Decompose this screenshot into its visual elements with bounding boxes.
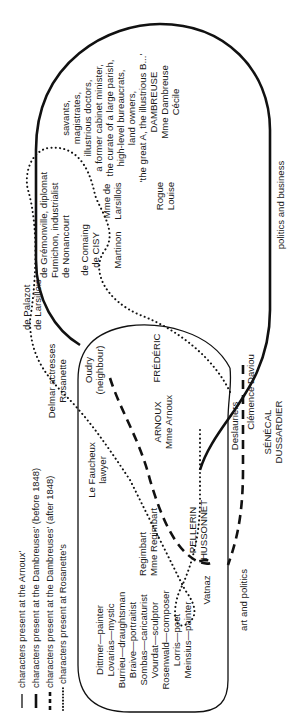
label: a former cabinet minister, [93, 64, 104, 172]
label: savants, [60, 100, 71, 136]
label-deslauriers: Deslauriers [229, 402, 240, 451]
legend-label: characters present at the Arnoux' [16, 551, 27, 688]
label: Delmar actresses [46, 343, 57, 418]
label: Rosanette [57, 359, 68, 403]
label: the curate of a large parish, [104, 60, 115, 177]
larsillois-group: Mme de Larsillois [101, 182, 123, 220]
legend-label: characters present at the Dambreuses' (a… [44, 476, 55, 688]
label: de Larsillois [32, 279, 43, 330]
label: lawyer [97, 455, 108, 484]
arnoux-group: ARNOUX Mme Arnoux [152, 395, 174, 449]
region-label-politics-business: politics and business [275, 161, 286, 250]
artists-group: Dittmer—painter Lovarias—mystic Burrieu—… [94, 590, 193, 690]
oudry-group: Oudry (neighbour) [83, 345, 105, 394]
label: Louise [165, 182, 176, 210]
label: Mme Dambreuse [159, 65, 170, 139]
label: de CISY [90, 232, 101, 268]
label: DAMBREUSE [148, 72, 159, 133]
gremonville-group: de Grémonville, diplomat Fumichon, indus… [38, 172, 71, 278]
label: land owners, [126, 91, 137, 145]
label: de Palazot [21, 284, 32, 330]
label: Burrieu—draughtsman [116, 592, 127, 689]
legend-label: characters present at Rosanette's [57, 544, 68, 684]
label: Rogue [154, 182, 165, 210]
dambreuse-family-group: DAMBREUSE Mme Dambreuse Cécile [148, 65, 181, 139]
label: Meinsius—painter [182, 601, 193, 679]
label: Lovarias—mystic [105, 603, 116, 676]
label: Dittmer—painter [94, 604, 105, 675]
label: DUSSARDIER [273, 400, 284, 463]
regimbart-group: Regimbart Mme Regimbart [137, 507, 159, 576]
region-label-art-politics: art and politics [238, 569, 249, 631]
senecal-group: SÉNÉCAL DUSSARDIER [262, 400, 284, 463]
label: Braive—portraitist [127, 602, 138, 679]
dambreuse-circle-group: savants, magistrates, illustrious doctor… [60, 54, 148, 183]
label: Lorris—poet [171, 614, 182, 667]
label-martinon: Martinon [112, 231, 123, 268]
label: Regimbart [137, 531, 148, 576]
fauchery-group: Le Faucheux lawyer [86, 442, 108, 498]
label-frederic: FRÉDÉRIC [151, 333, 162, 382]
label: high-level bureaucrats, [115, 69, 126, 166]
label: magistrates, [71, 92, 82, 144]
label: Oudry [83, 357, 94, 383]
label-clemence: Clémence Daviou [245, 354, 256, 430]
label: ARNOUX [152, 401, 163, 443]
label: Sombas—caricaturist [138, 594, 149, 686]
label: de Comaing [79, 224, 90, 276]
label: HUSSONNET [198, 500, 209, 560]
label: 'the great A, the illustrious B...' [137, 54, 148, 183]
label: de Grémonville, diplomat [38, 172, 49, 278]
label: Vourdat—sculptor [149, 601, 160, 678]
legend-label: characters present at the Dambreuses' (b… [30, 468, 41, 688]
label: PELLERIN [187, 507, 198, 553]
label: Mme Regimbart [148, 507, 159, 576]
label: Rosenwald—composer [160, 590, 171, 690]
rogue-group: Rogue Louise [154, 182, 176, 210]
label: Le Faucheux [86, 442, 97, 498]
pellerin-group: PELLERIN HUSSONNET [187, 500, 209, 560]
label: de Nonancourt [60, 215, 71, 278]
dambreuse-after-1848-line-2 [228, 365, 243, 565]
sociogram-diagram: savants, magistrates, illustrious doctor… [0, 0, 308, 723]
label: Fumichon, industrialist [49, 182, 60, 278]
label-vatnaz: Vatnaz [201, 575, 212, 604]
actresses-group: Delmar actresses Rosanette [46, 343, 68, 418]
cisy-group: de Comaing de CISY [79, 224, 101, 276]
label: (neighbour) [94, 345, 105, 394]
label: Larsillois [112, 182, 123, 220]
label: SÉNÉCAL [262, 409, 273, 454]
label: Cécile [170, 89, 181, 116]
label: illustrious doctors, [82, 80, 93, 157]
legend: characters present at the Arnoux' charac… [16, 468, 68, 710]
label: Mme Arnoux [163, 395, 174, 449]
label: Mme de [101, 184, 112, 219]
palazot-group: de Palazot de Larsillois [21, 279, 43, 330]
